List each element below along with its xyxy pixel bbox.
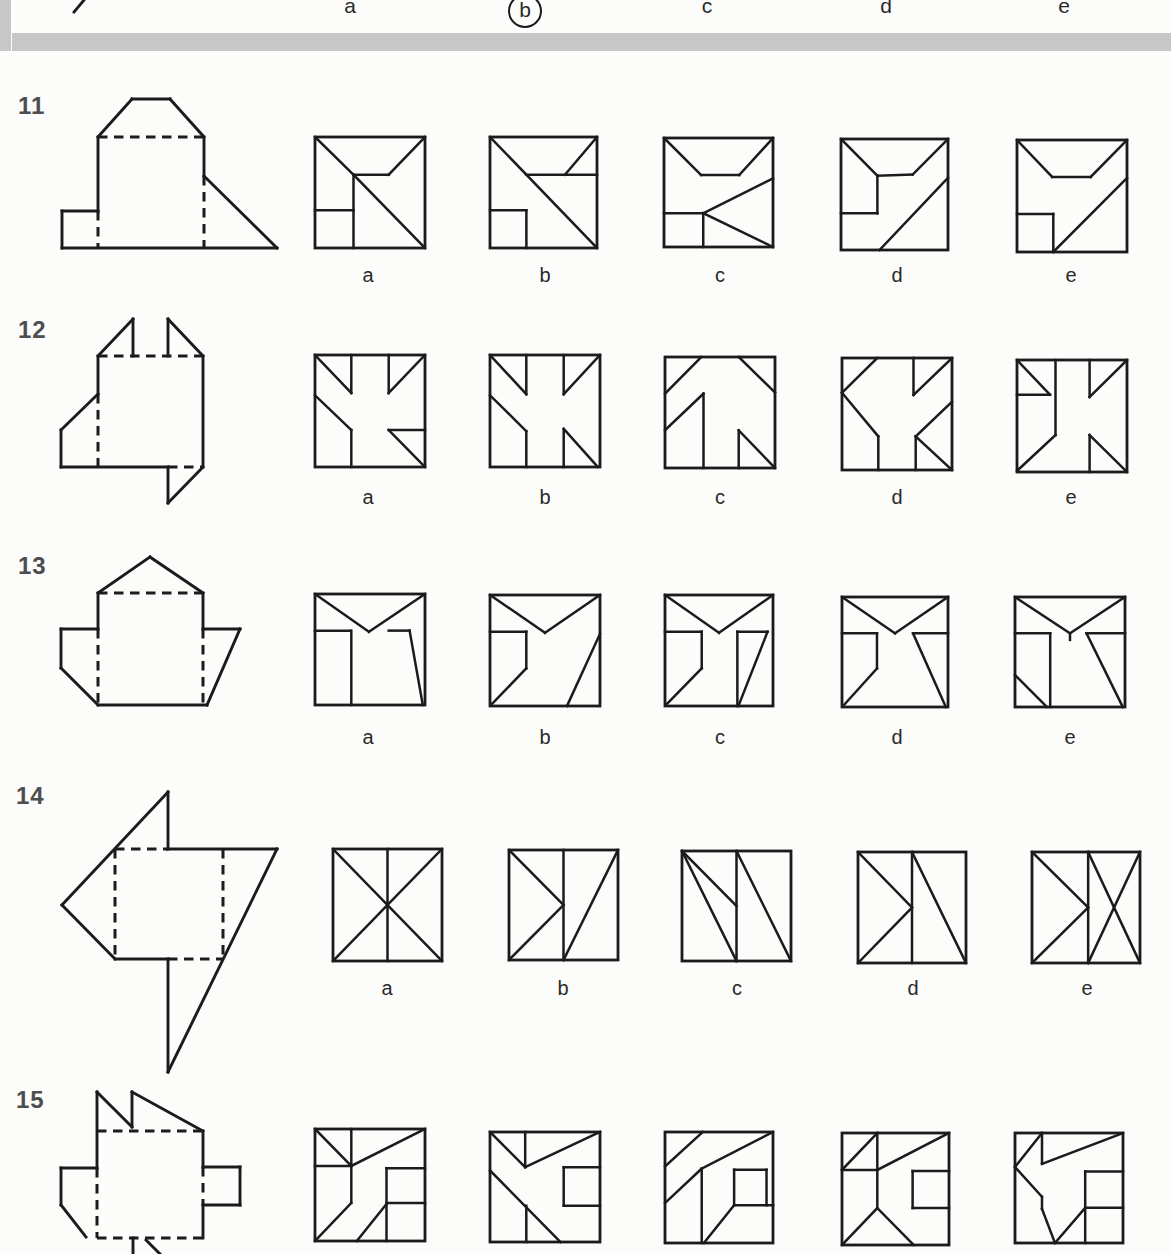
question-12-option-b[interactable]: [490, 355, 600, 467]
question-13-option-e[interactable]: [1015, 597, 1125, 707]
question-12-option-a[interactable]: [315, 355, 425, 467]
question-11-option-a-label[interactable]: a: [362, 264, 373, 287]
question-14-option-e[interactable]: [1032, 852, 1140, 963]
question-11-option-b[interactable]: [490, 137, 597, 248]
test-page: abcde 11abcde12abcde13abcde14abcde15: [0, 0, 1171, 1254]
question-13-option-b[interactable]: [490, 595, 600, 706]
question-12-option-e[interactable]: [1017, 360, 1127, 472]
question-15-option-e[interactable]: [1015, 1133, 1123, 1243]
question-11-stimulus: [62, 99, 277, 248]
question-15-option-b[interactable]: [490, 1132, 600, 1242]
question-11-option-b-label[interactable]: b: [539, 264, 550, 287]
question-15-option-c[interactable]: [665, 1132, 773, 1243]
question-15-stimulus: [61, 1092, 240, 1254]
question-13-option-d[interactable]: [842, 597, 948, 707]
question-14-option-b-label[interactable]: b: [557, 977, 568, 1000]
question-11-option-c-label[interactable]: c: [715, 264, 725, 287]
question-14-option-e-label[interactable]: e: [1081, 977, 1092, 1000]
question-12-option-c-label[interactable]: c: [715, 486, 725, 509]
question-12-option-a-label[interactable]: a: [362, 486, 373, 509]
question-15-option-d[interactable]: [842, 1133, 949, 1245]
question-12-option-d[interactable]: [842, 358, 952, 470]
question-12-option-e-label[interactable]: e: [1065, 486, 1076, 509]
question-12-option-b-label[interactable]: b: [539, 486, 550, 509]
question-14-option-d[interactable]: [858, 852, 966, 963]
question-13-option-d-label[interactable]: d: [891, 726, 902, 749]
question-14-option-c-label[interactable]: c: [732, 977, 742, 1000]
question-13-option-c[interactable]: [665, 595, 773, 706]
question-15-number: 15: [16, 1086, 45, 1114]
question-13-stimulus: [61, 557, 240, 705]
question-13-option-c-label[interactable]: c: [715, 726, 725, 749]
question-14-stimulus: [62, 792, 277, 1072]
question-11-option-a[interactable]: [315, 137, 425, 248]
question-12-number: 12: [18, 316, 47, 344]
question-14-number: 14: [16, 782, 45, 810]
question-12-option-c[interactable]: [665, 357, 775, 468]
question-11-option-e[interactable]: [1017, 140, 1127, 252]
question-14-option-d-label[interactable]: d: [907, 977, 918, 1000]
question-13-number: 13: [18, 552, 47, 580]
question-13-option-a-label[interactable]: a: [362, 726, 373, 749]
question-15-option-a[interactable]: [315, 1129, 425, 1241]
question-13-option-e-label[interactable]: e: [1064, 726, 1075, 749]
question-11-option-d[interactable]: [841, 139, 948, 250]
question-14-option-c[interactable]: [682, 851, 791, 961]
question-11-option-c[interactable]: [664, 138, 773, 247]
question-11-option-e-label[interactable]: e: [1065, 264, 1076, 287]
question-13-option-b-label[interactable]: b: [539, 726, 550, 749]
question-12-option-d-label[interactable]: d: [891, 486, 902, 509]
question-14-option-a-label[interactable]: a: [381, 977, 392, 1000]
question-14-option-b[interactable]: [509, 850, 618, 960]
question-13-option-a[interactable]: [315, 594, 425, 705]
question-11-number: 11: [18, 92, 45, 120]
question-14-option-a[interactable]: [333, 849, 442, 961]
question-12-stimulus: [61, 319, 203, 503]
figures-canvas: [0, 0, 1171, 1254]
question-11-option-d-label[interactable]: d: [891, 264, 902, 287]
